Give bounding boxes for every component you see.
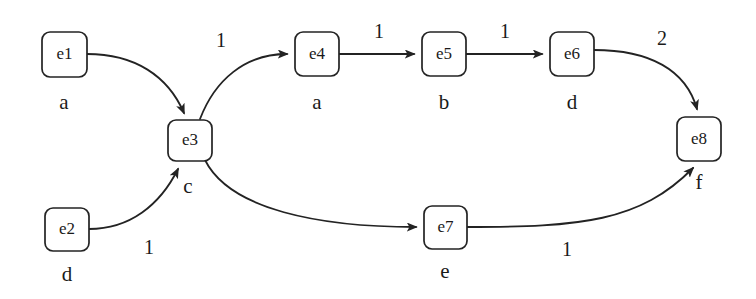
node-e8: e8 [677, 117, 721, 161]
edge-e7-e8 [467, 168, 693, 227]
node-state-e3: c [183, 174, 192, 198]
edge-weight-e3-e4: 1 [216, 29, 226, 51]
node-label-e1: e1 [56, 44, 72, 63]
node-label-e5: e5 [436, 44, 452, 63]
edge-weight-e6-e8: 2 [657, 27, 667, 49]
graph-canvas: e1ae2de3ce4ae5be6de7ee8f 111121 [0, 0, 756, 299]
node-state-e7: e [440, 259, 449, 283]
node-e4: e4 [295, 32, 339, 76]
node-e6: e6 [550, 32, 594, 76]
edge-e1-e3 [87, 54, 184, 113]
node-state-e2: d [62, 262, 73, 286]
edge-weight-e4-e5: 1 [374, 20, 384, 42]
node-label-e3: e3 [182, 130, 198, 149]
edge-e2-e3 [89, 169, 178, 229]
node-e3: e3 [168, 120, 212, 161]
edge-weight-e2-e3: 1 [144, 236, 154, 258]
edge-e3-e7 [205, 160, 416, 227]
edge-e6-e8 [594, 50, 697, 109]
node-label-e7: e7 [437, 217, 454, 236]
node-e7: e7 [424, 206, 467, 249]
node-label-e8: e8 [691, 129, 707, 148]
node-state-e5: b [439, 90, 450, 114]
node-label-e4: e4 [309, 44, 326, 63]
node-label-e2: e2 [59, 219, 75, 238]
node-e2: e2 [45, 208, 89, 251]
graph-diagram: e1ae2de3ce4ae5be6de7ee8f 111121 [0, 0, 756, 299]
node-state-e6: d [567, 90, 578, 114]
edge-e3-e4 [200, 54, 287, 119]
node-label-e6: e6 [564, 44, 580, 63]
node-e5: e5 [422, 32, 466, 76]
edge-weight-e7-e8: 1 [562, 238, 572, 260]
node-state-e4: a [312, 90, 322, 114]
node-state-e1: a [59, 90, 69, 114]
node-state-e8: f [696, 170, 703, 194]
node-e1: e1 [42, 32, 87, 77]
edge-weight-e5-e6: 1 [500, 20, 510, 42]
